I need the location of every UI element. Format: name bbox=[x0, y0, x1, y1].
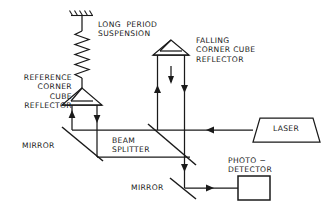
falling-corner-cube-prism bbox=[153, 40, 189, 61]
label-beam-splitter: BEAM SPLITTER bbox=[112, 136, 150, 155]
label-photo-detector: PHOTO − DETECTOR bbox=[228, 156, 272, 175]
free-fall-arrow bbox=[168, 66, 174, 84]
label-mirror-left: MIRROR bbox=[22, 141, 55, 150]
beam-down-from-reference-cube bbox=[94, 105, 101, 157]
beam-up-to-falling-cube bbox=[154, 61, 161, 130]
beam-down-from-falling-cube bbox=[181, 61, 188, 160]
ceiling-hatching bbox=[70, 11, 94, 16]
beam-mirror-to-detector bbox=[185, 185, 239, 192]
label-laser: LASER bbox=[262, 124, 310, 133]
label-falling-corner-cube-reflector: FALLING CORNER CUBE REFLECTOR bbox=[196, 36, 255, 64]
photodetector-rectangle bbox=[238, 176, 270, 200]
beam-splitter-down-to-mirror bbox=[181, 160, 188, 188]
label-long-period-suspension: LONG PERIOD SUSPENSION bbox=[98, 20, 157, 39]
label-reference-corner-cube-reflector: REFERENCE CORNER CUBE REFLECTOR bbox=[0, 73, 72, 111]
long-period-spring bbox=[75, 16, 89, 89]
label-mirror-bottom: MIRROR bbox=[131, 183, 164, 192]
gravimeter-diagram: LONG PERIOD SUSPENSION FALLING CORNER CU… bbox=[0, 0, 324, 209]
